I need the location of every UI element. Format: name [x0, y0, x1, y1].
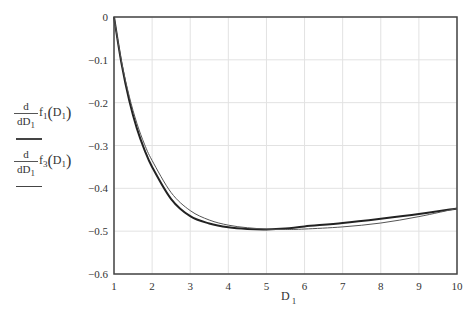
x-axis-label: D1 — [281, 289, 296, 306]
legend-line-f3 — [16, 186, 42, 187]
x-tick-label: 1 — [111, 280, 117, 292]
x-tick-label: 7 — [340, 280, 346, 292]
series-line-f1 — [114, 17, 457, 229]
function-label-f1: f1(D1) — [39, 104, 71, 122]
x-tick-label: 10 — [452, 280, 464, 292]
x-tick-label: 2 — [149, 280, 155, 292]
legend-line-f1 — [16, 138, 42, 140]
plot-series — [114, 17, 457, 229]
grid-lines — [114, 17, 457, 274]
y-tick-label: −0.6 — [88, 268, 108, 280]
function-label-f3: f3(D1) — [39, 152, 71, 170]
legend-entry-f3: d dD1 f3(D1) — [14, 148, 114, 196]
x-tick-label: 4 — [226, 280, 232, 292]
x-tick-label: 3 — [187, 280, 193, 292]
y-tick-label: −0.1 — [88, 54, 108, 66]
x-tick-label: 5 — [264, 280, 270, 292]
x-tick-label: 9 — [416, 280, 422, 292]
legend-entry-f1: d dD1 f1(D1) — [14, 100, 114, 148]
x-tick-label: 6 — [302, 280, 308, 292]
y-tick-label: 0 — [103, 11, 109, 23]
y-tick-label: −0.5 — [88, 225, 108, 237]
derivative-fraction: d dD1 — [14, 100, 38, 131]
derivative-fraction: d dD1 — [14, 148, 38, 179]
series-line-f3 — [114, 17, 457, 229]
y-axis-legend: d dD1 f1(D1) d dD1 f3(D1) — [14, 100, 114, 196]
x-tick-label: 8 — [378, 280, 384, 292]
